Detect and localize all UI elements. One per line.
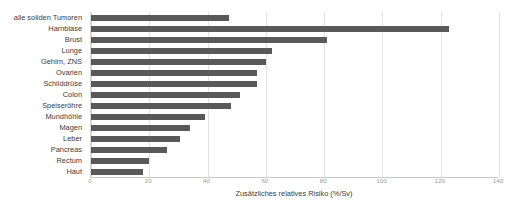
bar <box>91 59 266 65</box>
y-axis-label: Magen <box>59 124 82 131</box>
bar-row <box>91 45 498 56</box>
bar-row <box>91 134 498 145</box>
y-axis-label: Speiseröhre <box>42 102 82 109</box>
bar-chart: alle soliden TumorenHarnblaseBrustLungeG… <box>0 0 513 207</box>
bar <box>91 136 180 142</box>
y-axis-label: Schilddrüse <box>43 80 82 87</box>
bar-row <box>91 67 498 78</box>
bar-row <box>91 89 498 100</box>
x-axis-title: Zusätzliches relatives Risiko (%/Sv) <box>90 190 498 197</box>
bar-row <box>91 101 498 112</box>
y-axis-label: Mundhöhle <box>45 113 82 120</box>
x-axis-tick-140: 140 <box>493 178 503 184</box>
y-axis-label: Pancreas <box>51 147 82 154</box>
gridline-140 <box>499 12 500 177</box>
bar <box>91 81 257 87</box>
bar <box>91 125 190 131</box>
bar <box>91 48 272 54</box>
y-axis-label: Rectum <box>57 158 82 165</box>
x-axis-tick-80: 80 <box>320 178 327 184</box>
y-axis-label: Harnblase <box>48 25 82 32</box>
x-axis-tick-40: 40 <box>203 178 210 184</box>
bar-row <box>91 12 498 23</box>
bar <box>91 158 149 164</box>
x-axis-tick-20: 20 <box>145 178 152 184</box>
y-axis-label: Leber <box>63 136 82 143</box>
y-axis-label: alle soliden Tumoren <box>14 14 82 21</box>
bar-row <box>91 23 498 34</box>
y-axis-label: Haut <box>66 169 82 176</box>
bar-row <box>91 56 498 67</box>
y-axis-label: Brust <box>65 36 82 43</box>
x-axis-tick-120: 120 <box>435 178 445 184</box>
bar-row <box>91 112 498 123</box>
x-axis-tick-60: 60 <box>261 178 268 184</box>
bar <box>91 147 167 153</box>
bar <box>91 37 327 43</box>
bar-rows <box>91 12 498 177</box>
y-axis-label: Lunge <box>61 47 82 54</box>
plot-area <box>90 12 498 178</box>
bar-row <box>91 34 498 45</box>
bar <box>91 92 240 98</box>
bar-row <box>91 156 498 167</box>
y-axis-label: Ovarien <box>56 69 82 76</box>
bar <box>91 103 231 109</box>
bar <box>91 26 449 32</box>
bar <box>91 169 143 175</box>
bar <box>91 114 205 120</box>
bar-row <box>91 145 498 156</box>
y-axis-label: Colon <box>63 91 82 98</box>
bar-row <box>91 123 498 134</box>
bar-row <box>91 78 498 89</box>
x-axis-tick-0: 0 <box>88 178 91 184</box>
bar <box>91 15 229 21</box>
y-axis-category-labels: alle soliden TumorenHarnblaseBrustLungeG… <box>0 12 86 178</box>
y-axis-label: Gehirn, ZNS <box>41 58 82 65</box>
bar <box>91 70 257 76</box>
x-axis-tick-100: 100 <box>376 178 386 184</box>
